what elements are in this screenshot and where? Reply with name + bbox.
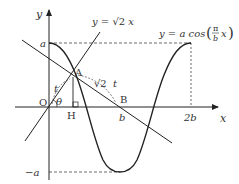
right-angle-mark — [73, 102, 78, 107]
line-sqrt2x — [25, 32, 100, 141]
origin-label: O — [39, 97, 47, 108]
b-tick-label: b — [119, 112, 125, 123]
x-axis-label: x — [220, 112, 227, 125]
2b-tick-label: 2b — [183, 112, 197, 123]
segment-AB-t-label: t — [113, 78, 118, 89]
y-axis-label: y — [35, 8, 43, 21]
math-diagram: y x O a −a b 2b A B H t √2 t θ y = √2 x … — [0, 0, 239, 184]
line-AB — [22, 40, 172, 143]
point-B-label: B — [120, 94, 127, 105]
line-label-root: √2 — [112, 16, 125, 27]
point-H-label: H — [67, 110, 76, 121]
neg-a-tick-label: −a — [25, 167, 39, 178]
point-A-label: A — [74, 67, 83, 78]
line-label-prefix: y = — [91, 16, 112, 27]
line-sqrt2x-label: y = √2 x — [91, 16, 134, 27]
angle-theta-label: θ — [56, 96, 62, 107]
curve-label-paren-open: ( — [206, 24, 212, 42]
curve-label-suffix: x — [221, 28, 227, 39]
a-tick-label: a — [40, 38, 46, 49]
line-label-suffix: x — [125, 16, 134, 27]
curve-label-paren-close: ) — [228, 24, 234, 42]
curve-label-frac-num: π — [213, 24, 218, 33]
curve-label-prefix: y = a cos — [158, 28, 205, 39]
curve-label-frac-den: b — [213, 34, 218, 43]
segment-AB-root-label: √2 — [94, 78, 107, 89]
